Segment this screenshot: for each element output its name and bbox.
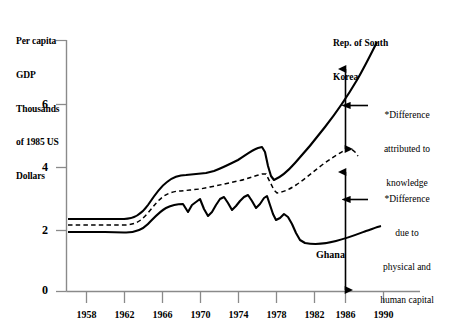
y-axis-title-line-2: GDP xyxy=(16,70,70,81)
y-axis-title-line-1: Per capita xyxy=(16,36,70,47)
annotation-capital-line-4: human capital xyxy=(368,295,446,306)
y-axis-title-line-4: of 1985 US xyxy=(16,137,70,148)
y-tick-label-0: 0 xyxy=(32,283,48,297)
series-label-korea-line-1: Rep. of South xyxy=(333,38,405,49)
chart-container: Per capita GDP Thousands of 1985 US Doll… xyxy=(0,0,450,334)
annotation-capital-line-1: *Difference xyxy=(368,194,446,205)
annotation-knowledge-line-1: *Difference xyxy=(368,110,446,121)
series-label-ghana: Ghana xyxy=(316,249,345,261)
annotation-knowledge-line-2: attributed to xyxy=(368,144,446,155)
x-tick-label-1978: 1978 xyxy=(260,309,294,321)
annotation-capital-line-2: due to xyxy=(368,228,446,239)
y-tick-label-4: 4 xyxy=(32,160,48,174)
x-tick-label-1966: 1966 xyxy=(146,309,180,321)
x-tick-label-1986: 1986 xyxy=(329,309,363,321)
y-tick-label-6: 6 xyxy=(32,97,48,111)
y-tick-label-2: 2 xyxy=(32,223,48,237)
x-tick-label-1962: 1962 xyxy=(108,309,142,321)
x-tick-label-1970: 1970 xyxy=(184,309,218,321)
series-label-korea-line-2: Korea xyxy=(333,72,405,83)
series-line-korea xyxy=(68,42,377,219)
x-tick-marks xyxy=(87,292,384,304)
annotation-capital: *Difference due to physical and human ca… xyxy=(368,172,446,329)
x-tick-label-1974: 1974 xyxy=(222,309,256,321)
series-line-dashed-capital xyxy=(68,148,358,225)
x-tick-label-1982: 1982 xyxy=(298,309,332,321)
x-tick-label-1958: 1958 xyxy=(70,309,104,321)
annotation-capital-line-3: physical and xyxy=(368,262,446,273)
